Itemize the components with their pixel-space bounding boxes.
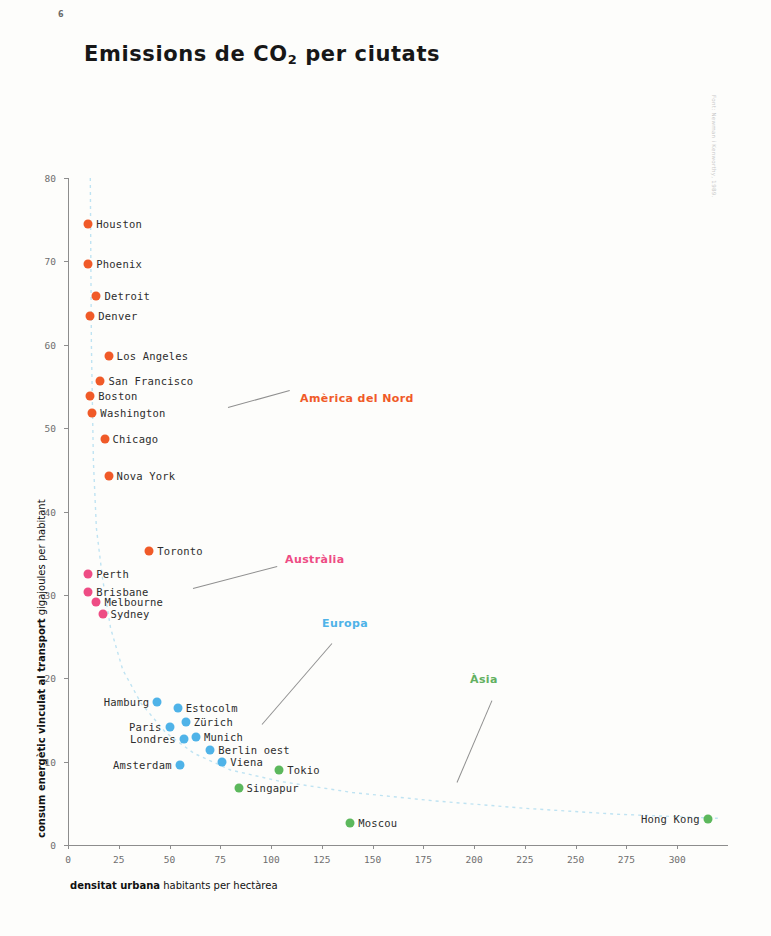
y-tick-label: 50	[45, 423, 56, 434]
y-axis-title-bold: consum energètic vinculat al transport	[36, 618, 47, 838]
data-point[interactable]	[165, 723, 174, 732]
data-point[interactable]	[86, 392, 95, 401]
x-tick-label: 50	[164, 854, 175, 865]
data-point-label: Estocolm	[186, 702, 238, 714]
data-point[interactable]	[84, 587, 93, 596]
data-point-label: Zürich	[194, 716, 233, 728]
y-tick-label: 0	[50, 840, 56, 851]
x-axis-title: densitat urbana habitants per hectàrea	[70, 880, 278, 891]
data-point-label: Singapur	[247, 782, 299, 794]
data-point[interactable]	[84, 570, 93, 579]
title-main: Emissions de CO	[84, 42, 288, 66]
y-tick-mark	[64, 512, 68, 513]
data-point[interactable]	[218, 757, 227, 766]
title-tail: per ciutats	[297, 42, 440, 66]
data-point[interactable]	[88, 409, 97, 418]
x-tick-label: 150	[364, 854, 381, 865]
x-tick-label: 25	[113, 854, 124, 865]
x-tick-mark	[220, 845, 221, 849]
data-point-label: Denver	[98, 310, 137, 322]
x-tick-mark	[474, 845, 475, 849]
x-tick-label: 75	[215, 854, 226, 865]
x-tick-label: 200	[466, 854, 483, 865]
x-tick-label: 125	[313, 854, 330, 865]
y-tick-mark	[64, 178, 68, 179]
title-subscript: 2	[288, 52, 298, 67]
data-point[interactable]	[703, 815, 712, 824]
y-tick-mark	[64, 678, 68, 679]
data-point-label: Viena	[230, 756, 263, 768]
data-point-label: Houston	[96, 218, 142, 230]
data-point[interactable]	[92, 597, 101, 606]
y-tick-mark	[64, 345, 68, 346]
y-tick-mark	[64, 261, 68, 262]
data-point-label: Boston	[98, 390, 137, 402]
x-tick-label: 0	[65, 854, 71, 865]
data-point-label: Detroit	[104, 290, 150, 302]
y-tick-label: 60	[45, 339, 56, 350]
data-point-label: Hamburg	[104, 696, 150, 708]
data-point-label: Phoenix	[96, 258, 142, 270]
data-point[interactable]	[98, 610, 107, 619]
data-point[interactable]	[173, 704, 182, 713]
data-point[interactable]	[104, 471, 113, 480]
data-point[interactable]	[84, 259, 93, 268]
x-tick-label: 275	[618, 854, 635, 865]
data-point[interactable]	[84, 219, 93, 228]
data-point-label: Londres	[130, 733, 176, 745]
data-point-label: Perth	[96, 568, 129, 580]
x-tick-label: 225	[516, 854, 533, 865]
data-point-label: San Francisco	[108, 375, 193, 387]
data-point[interactable]	[96, 377, 105, 386]
y-axis-title-rest: gigajoules per habitant	[36, 499, 47, 618]
y-tick-label: 70	[45, 256, 56, 267]
data-point-label: Tokio	[287, 764, 320, 776]
data-point-label: Toronto	[157, 545, 203, 557]
x-tick-mark	[576, 845, 577, 849]
data-point-label: Melbourne	[104, 596, 163, 608]
data-point-label: Berlin oest	[218, 744, 290, 756]
data-point[interactable]	[346, 819, 355, 828]
x-tick-mark	[373, 845, 374, 849]
x-tick-mark	[525, 845, 526, 849]
x-tick-mark	[626, 845, 627, 849]
y-tick-mark	[64, 428, 68, 429]
chart-page: 6 Emissions de CO2 per ciutats Font: New…	[0, 0, 771, 936]
data-point[interactable]	[179, 735, 188, 744]
data-point[interactable]	[104, 352, 113, 361]
data-point[interactable]	[175, 760, 184, 769]
data-point-label: Los Angeles	[117, 350, 189, 362]
group-label: Europa	[322, 617, 368, 630]
data-point[interactable]	[234, 784, 243, 793]
data-point[interactable]	[275, 765, 284, 774]
y-tick-mark	[64, 845, 68, 846]
x-tick-label: 175	[415, 854, 432, 865]
data-point[interactable]	[86, 312, 95, 321]
group-label: Amèrica del Nord	[300, 392, 414, 405]
group-label: Àsia	[470, 673, 498, 686]
data-point[interactable]	[153, 698, 162, 707]
x-tick-mark	[677, 845, 678, 849]
page-title: Emissions de CO2 per ciutats	[84, 42, 440, 66]
page-number: 6	[58, 10, 64, 19]
data-point-label: Sydney	[111, 608, 150, 620]
data-point-label: Paris	[129, 721, 162, 733]
x-tick-mark	[271, 845, 272, 849]
data-point[interactable]	[100, 434, 109, 443]
x-axis-title-bold: densitat urbana	[70, 880, 160, 891]
x-tick-mark	[423, 845, 424, 849]
x-tick-label: 300	[669, 854, 686, 865]
data-point[interactable]	[145, 546, 154, 555]
data-point[interactable]	[191, 732, 200, 741]
data-point[interactable]	[181, 717, 190, 726]
data-point-label: Nova York	[117, 470, 176, 482]
x-tick-mark	[322, 845, 323, 849]
group-label: Austràlia	[285, 553, 345, 566]
y-axis-title: consum energètic vinculat al transport g…	[36, 499, 47, 838]
data-point-label: Hong Kong	[641, 813, 700, 825]
data-point-label: Moscou	[358, 817, 397, 829]
data-point-label: Munich	[204, 731, 243, 743]
x-tick-label: 100	[262, 854, 279, 865]
data-point[interactable]	[206, 745, 215, 754]
data-point[interactable]	[92, 292, 101, 301]
